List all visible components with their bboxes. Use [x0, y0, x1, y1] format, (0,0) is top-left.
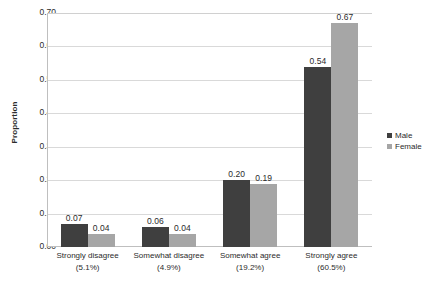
bar-group: 0.070.04	[47, 13, 128, 247]
bar-male[interactable]	[304, 67, 331, 248]
bar-female[interactable]	[88, 234, 115, 247]
legend-item-male[interactable]: Male	[387, 131, 422, 140]
bar-male[interactable]	[142, 227, 169, 247]
legend-swatch-icon	[387, 133, 392, 138]
category-percent: (60.5%)	[291, 262, 372, 274]
category-percent: (4.9%)	[128, 262, 209, 274]
chart-legend: MaleFemale	[387, 131, 422, 151]
bar-slot: 0.19	[250, 13, 277, 247]
bar-value-label: 0.54	[310, 56, 327, 66]
bar-slot: 0.04	[169, 13, 196, 247]
x-axis-category-labels: Strongly disagree(5.1%)Somewhat disagree…	[47, 250, 372, 284]
category-name: Somewhat disagree	[134, 251, 205, 260]
bar-slot: 0.67	[331, 13, 358, 247]
bar-value-label: 0.07	[66, 213, 83, 223]
bar-slot: 0.20	[223, 13, 250, 247]
category-name: Strongly agree	[305, 251, 357, 260]
x-axis-category-label: Somewhat agree(19.2%)	[210, 250, 291, 273]
bar-male[interactable]	[223, 180, 250, 247]
bars-layer: 0.070.040.060.040.200.190.540.67	[47, 13, 372, 247]
bar-slot: 0.54	[304, 13, 331, 247]
bar-value-label: 0.19	[255, 173, 272, 183]
bar-slot: 0.07	[61, 13, 88, 247]
bar-female[interactable]	[169, 234, 196, 247]
legend-item-female[interactable]: Female	[387, 142, 422, 151]
bar-group: 0.540.67	[291, 13, 372, 247]
bar-male[interactable]	[61, 224, 88, 247]
legend-label: Female	[395, 142, 422, 151]
bar-value-label: 0.06	[147, 216, 164, 226]
x-axis-category-label: Strongly disagree(5.1%)	[47, 250, 128, 273]
x-axis-category-label: Somewhat disagree(4.9%)	[128, 250, 209, 273]
bar-chart: Proportion 0.700.600.500.400.300.200.100…	[0, 0, 433, 284]
category-name: Strongly disagree	[56, 251, 118, 260]
bar-female[interactable]	[250, 184, 277, 248]
bar-female[interactable]	[331, 23, 358, 247]
bar-group: 0.060.04	[128, 13, 209, 247]
bar-slot: 0.04	[88, 13, 115, 247]
bar-slot: 0.06	[142, 13, 169, 247]
bar-value-label: 0.67	[337, 12, 354, 22]
category-percent: (5.1%)	[47, 262, 128, 274]
bar-group: 0.200.19	[210, 13, 291, 247]
legend-swatch-icon	[387, 144, 392, 149]
bar-value-label: 0.04	[93, 223, 110, 233]
bar-value-label: 0.04	[174, 223, 191, 233]
x-axis-category-label: Strongly agree(60.5%)	[291, 250, 372, 273]
category-percent: (19.2%)	[210, 262, 291, 274]
bar-value-label: 0.20	[228, 169, 245, 179]
legend-label: Male	[395, 131, 412, 140]
category-name: Somewhat agree	[220, 251, 280, 260]
